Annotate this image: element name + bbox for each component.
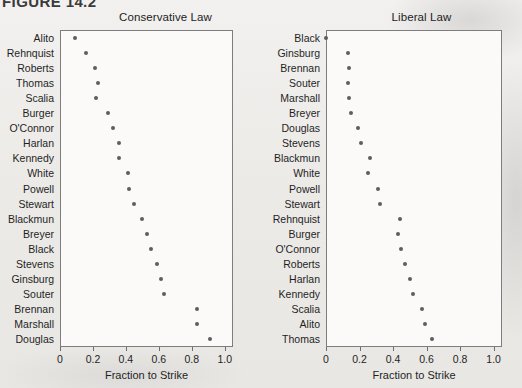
data-point — [420, 307, 424, 311]
data-point — [208, 337, 212, 341]
x-axis-tick — [360, 347, 361, 351]
y-axis-label-liberal: Stevens — [282, 138, 320, 149]
data-point — [376, 187, 380, 191]
y-axis-label-conservative: White — [27, 168, 54, 179]
data-point — [132, 202, 136, 206]
data-point — [111, 126, 115, 130]
y-axis-label-conservative: Burger — [22, 108, 54, 119]
plot-area-conservative — [60, 30, 233, 347]
y-axis-label-liberal: O'Connor — [275, 244, 320, 255]
data-point — [423, 322, 427, 326]
y-axis-label-liberal: Harlan — [289, 274, 320, 285]
y-axis-labels-conservative: AlitoRehnquistRobertsThomasScaliaBurgerO… — [0, 30, 57, 347]
x-axis-tick-label: 0.6 — [419, 353, 434, 365]
x-axis-tick — [494, 347, 495, 351]
x-axis-tick — [126, 347, 127, 351]
x-axis-title: Fraction to Strike — [105, 369, 188, 381]
data-point — [162, 292, 166, 296]
data-point — [408, 277, 412, 281]
y-axis-label-conservative: Harlan — [23, 138, 54, 149]
data-point — [411, 292, 415, 296]
y-axis-label-conservative: Stewart — [18, 198, 54, 209]
y-axis-label-conservative: Marshall — [14, 319, 54, 330]
x-axis-tick-label: 1.0 — [486, 353, 501, 365]
y-axis-label-liberal: Thomas — [282, 334, 320, 345]
data-point — [149, 247, 153, 251]
y-axis-label-liberal: Roberts — [283, 259, 320, 270]
data-point — [359, 141, 363, 145]
data-point — [84, 51, 88, 55]
data-point — [117, 141, 121, 145]
data-point — [145, 232, 149, 236]
data-point — [73, 36, 77, 40]
x-axis-tick — [460, 347, 461, 351]
data-point — [195, 307, 199, 311]
chart-panel-liberal: Liberal Law BlackGinsburgBrennanSouterMa… — [261, 0, 522, 388]
x-axis-tick-label: 0.2 — [86, 353, 101, 365]
y-axis-label-conservative: Douglas — [15, 334, 54, 345]
data-point — [346, 81, 350, 85]
x-axis-tick-label: 0 — [57, 353, 63, 365]
y-axis-label-conservative: Powell — [23, 183, 54, 194]
x-axis-tick — [60, 347, 61, 351]
data-point — [347, 96, 351, 100]
y-axis-label-conservative: Alito — [34, 32, 54, 43]
data-point — [159, 277, 163, 281]
data-point — [399, 247, 403, 251]
x-axis-tick — [326, 347, 327, 351]
data-point — [378, 202, 382, 206]
y-axis-label-liberal: Scalia — [291, 304, 320, 315]
y-axis-label-conservative: Brennan — [14, 304, 54, 315]
y-axis-label-liberal: Souter — [289, 78, 320, 89]
x-axis-tick-label: 0.4 — [386, 353, 401, 365]
x-axis-tick — [159, 347, 160, 351]
y-axis-label-conservative: Black — [28, 244, 54, 255]
y-axis-label-liberal: Breyer — [289, 108, 320, 119]
x-axis-tick-label: 0.2 — [352, 353, 367, 365]
data-point — [366, 171, 370, 175]
y-axis-label-conservative: Thomas — [16, 78, 54, 89]
x-axis-tick — [393, 347, 394, 351]
y-axis-label-liberal: Marshall — [280, 93, 320, 104]
x-axis-tick — [192, 347, 193, 351]
data-point — [396, 232, 400, 236]
data-point — [94, 96, 98, 100]
x-axis-tick-label: 0.6 — [152, 353, 167, 365]
chart-title-liberal: Liberal Law — [261, 11, 522, 23]
y-axis-label-conservative: Ginsburg — [11, 274, 54, 285]
y-axis-label-conservative: Kennedy — [13, 153, 54, 164]
y-axis-label-liberal: Blackmun — [274, 153, 320, 164]
y-axis-label-conservative: Souter — [23, 289, 54, 300]
y-axis-label-liberal: Burger — [288, 229, 320, 240]
y-axis-label-liberal: Douglas — [281, 123, 320, 134]
data-point — [117, 156, 121, 160]
x-axis-tick — [225, 347, 226, 351]
y-axis-label-liberal: Alito — [300, 319, 320, 330]
y-axis-label-liberal: Kennedy — [279, 289, 320, 300]
y-axis-label-conservative: Breyer — [23, 229, 54, 240]
data-point — [126, 171, 130, 175]
y-axis-label-liberal: Stewart — [284, 198, 320, 209]
y-axis-label-liberal: Black — [294, 32, 320, 43]
data-point — [403, 262, 407, 266]
data-point — [368, 156, 372, 160]
data-point — [106, 111, 110, 115]
x-axis-tick-label: 0.4 — [119, 353, 134, 365]
data-point — [356, 126, 360, 130]
y-axis-label-conservative: O'Connor — [9, 123, 54, 134]
data-point — [347, 66, 351, 70]
y-axis-label-liberal: Powell — [289, 183, 320, 194]
data-point — [324, 36, 328, 40]
x-axis-tick-label: 0.8 — [184, 353, 199, 365]
data-point — [127, 187, 131, 191]
data-point — [398, 217, 402, 221]
x-axis-tick-label: 1.0 — [217, 353, 232, 365]
data-point — [96, 81, 100, 85]
data-point — [346, 51, 350, 55]
data-point — [195, 322, 199, 326]
y-axis-label-liberal: Rehnquist — [273, 213, 320, 224]
y-axis-label-conservative: Stevens — [16, 259, 54, 270]
y-axis-label-liberal: Ginsburg — [277, 47, 320, 58]
x-axis-tick-label: 0 — [323, 353, 329, 365]
x-axis-tick-label: 0.8 — [453, 353, 468, 365]
